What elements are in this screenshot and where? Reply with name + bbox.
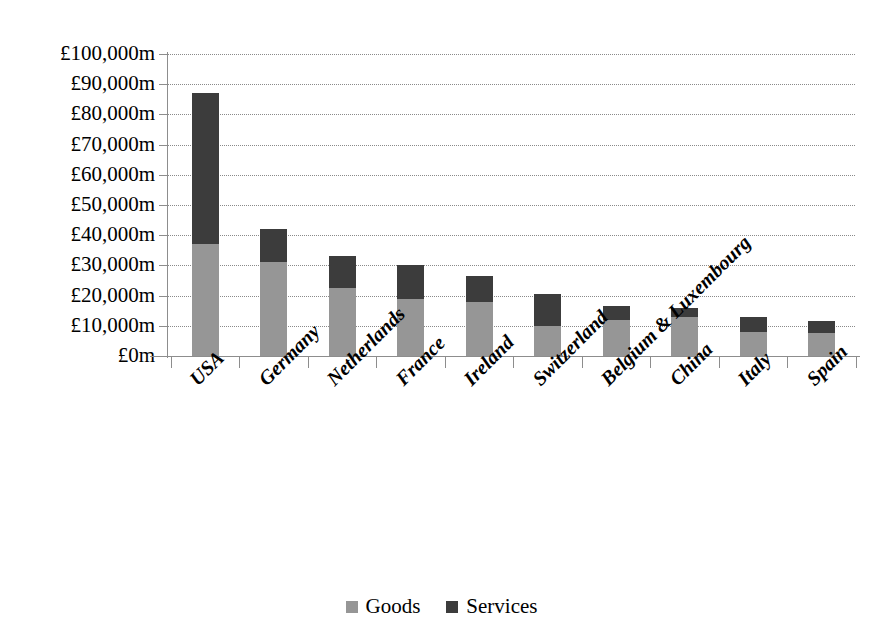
y-axis-tick-label: £90,000m [70, 73, 155, 94]
y-axis-tick-label: £10,000m [70, 315, 155, 336]
chart-legend: Goods Services [0, 596, 883, 617]
y-axis-tick [159, 84, 168, 85]
y-axis-tick [159, 326, 168, 327]
legend-label-services: Services [466, 596, 537, 617]
y-axis-tick [159, 296, 168, 297]
stacked-bar-chart: £100,000m£90,000m£80,000m£70,000m£60,000… [0, 0, 883, 636]
legend-swatch-goods [346, 601, 358, 613]
bar-group [260, 54, 287, 356]
bar-segment-goods [192, 244, 219, 356]
bar-group [740, 54, 767, 356]
y-axis-tick-label: £60,000m [70, 164, 155, 185]
y-axis-tick-label: £70,000m [70, 134, 155, 155]
legend-item-goods: Goods [346, 596, 421, 617]
x-axis-tick [787, 356, 788, 368]
y-axis-tick-label: £50,000m [70, 194, 155, 215]
y-axis-tick-label: £20,000m [70, 285, 155, 306]
x-axis-tick [445, 356, 446, 368]
bar-segment-services [534, 294, 561, 326]
bar-segment-goods [260, 262, 287, 356]
legend-label-goods: Goods [366, 596, 421, 617]
y-axis-tick [159, 235, 168, 236]
y-axis-tick [159, 265, 168, 266]
y-axis-tick-label: £100,000m [60, 43, 155, 64]
y-axis-tick [159, 54, 168, 55]
bar-group [466, 54, 493, 356]
x-axis-tick [719, 356, 720, 368]
x-axis-tick [582, 356, 583, 368]
bar-group [603, 54, 630, 356]
plot-area [168, 54, 855, 356]
bar-segment-services [260, 229, 287, 262]
x-axis-tick [513, 356, 514, 368]
bar-segment-services [808, 321, 835, 333]
bar-group [192, 54, 219, 356]
bar-segment-services [329, 256, 356, 288]
y-axis-tick-label: £30,000m [70, 254, 155, 275]
legend-item-services: Services [446, 596, 537, 617]
y-axis-labels: £100,000m£90,000m£80,000m£70,000m£60,000… [0, 0, 155, 636]
bar-segment-services [397, 265, 424, 298]
bar-group [808, 54, 835, 356]
x-axis-tick [856, 356, 857, 368]
legend-swatch-services [446, 601, 458, 613]
y-axis-tick [159, 145, 168, 146]
y-axis-tick-label: £40,000m [70, 224, 155, 245]
x-axis-tick [376, 356, 377, 368]
bar-segment-services [466, 276, 493, 302]
y-axis-tick [159, 175, 168, 176]
y-axis-tick [159, 114, 168, 115]
x-axis-tick [171, 356, 172, 368]
y-axis-tick [159, 205, 168, 206]
y-axis-tick [159, 356, 168, 357]
bar-segment-services [192, 93, 219, 244]
bar-group [534, 54, 561, 356]
bar-group [329, 54, 356, 356]
y-axis-tick-label: £80,000m [70, 103, 155, 124]
x-axis-tick [308, 356, 309, 368]
bar-segment-services [740, 317, 767, 332]
x-axis-tick [650, 356, 651, 368]
x-axis-tick [239, 356, 240, 368]
